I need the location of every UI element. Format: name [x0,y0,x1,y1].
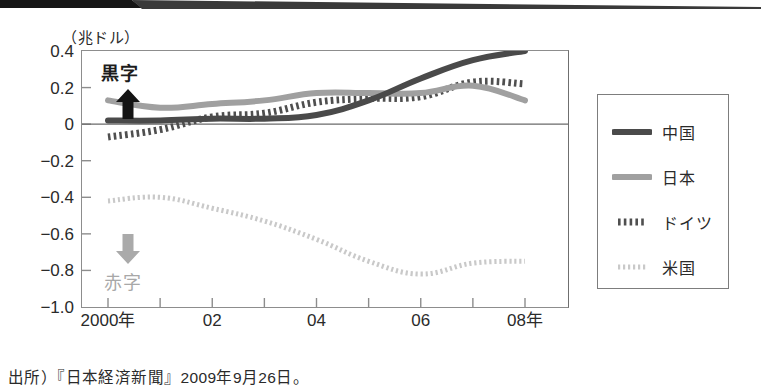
annotation-deficit-label: 赤字 [104,268,142,294]
y-axis-tick-label: −0.4 [12,189,74,206]
x-axis-tick-label: 08年 [507,312,543,329]
trade-balance-figure: （兆ドル） 0.40.20−0.2−0.4−0.6−0.8−1.0 黒字 赤字 [0,10,761,390]
plot-svg [82,51,568,307]
legend-item: ドイツ [598,199,728,244]
legend-label: 中国 [662,120,696,144]
y-axis-tick-label: 0.2 [12,80,74,97]
y-axis-tick-label: 0 [12,116,74,133]
annotation-surplus-label: 黒字 [101,59,139,85]
legend-label: 米国 [662,255,696,279]
top-rule [0,0,761,10]
y-axis-tick-label: −0.2 [12,153,74,170]
legend-label: ドイツ [662,210,713,234]
legend-swatch-china [612,125,652,139]
series-lines [108,51,525,274]
legend-swatch-usa [612,260,652,274]
legend-item: 日本 [598,154,728,199]
series-line-usa [108,197,525,274]
y-axis-tick-label: −0.8 [12,262,74,279]
legend-swatch-japan [612,170,652,184]
x-axis-tick-label: 04 [307,312,326,329]
x-axis-tick-label: 02 [203,312,222,329]
legend-item: 米国 [598,244,728,289]
legend-label: 日本 [662,165,696,189]
legend: 中国日本ドイツ米国 [597,94,729,289]
y-axis-tick-label: −0.6 [12,226,74,243]
legend-swatch-germany [612,215,652,229]
y-axis-tick-labels: 0.40.20−0.2−0.4−0.6−0.8−1.0 [6,50,74,308]
x-axis-tick-labels: 2000年02040608年 [81,312,569,342]
x-axis-tick-label: 06 [411,312,430,329]
y-axis-tick-label: 0.4 [12,43,74,60]
series-line-japan [108,86,525,108]
arrow-down-icon [115,233,141,265]
plot-area [81,50,569,308]
source-note: 出所）『日本経済新聞』2009年9月26日。 [8,365,309,387]
x-axis-tick-label: 2000年 [81,312,136,329]
arrow-up-icon [115,88,141,120]
legend-item: 中国 [598,109,728,154]
y-axis-tick-label: −1.0 [12,299,74,316]
